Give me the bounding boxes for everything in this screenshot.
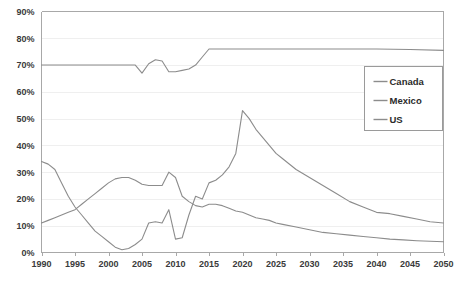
x-axis-tick-labels: 1990199520002005201020152020202520302035… [31, 259, 453, 269]
x-tick-label: 1990 [31, 259, 51, 269]
x-tick-label: 2030 [299, 259, 319, 269]
y-tick-label: 80% [16, 34, 34, 44]
x-tick-label: 2010 [165, 259, 185, 269]
x-tick-label: 2045 [400, 259, 420, 269]
chart-legend: CanadaMexicoUS [365, 67, 443, 131]
y-tick-label: 0% [21, 248, 34, 258]
x-tick-label: 2005 [132, 259, 152, 269]
series-line-mexico [42, 172, 444, 242]
y-tick-label: 70% [16, 60, 34, 70]
x-tick-label: 2015 [199, 259, 219, 269]
x-tick-label: 2025 [266, 259, 286, 269]
legend-label-us[interactable]: US [390, 114, 403, 125]
series-line-canada [42, 111, 444, 250]
y-tick-label: 10% [16, 221, 34, 231]
x-tick-label: 1995 [65, 259, 85, 269]
y-tick-label: 20% [16, 194, 34, 204]
x-tick-label: 2040 [366, 259, 386, 269]
y-axis-tick-labels: 0%10%20%30%40%50%60%70%80%90% [16, 7, 34, 258]
y-tick-label: 50% [16, 114, 34, 124]
x-tick-label: 2000 [98, 259, 118, 269]
legend-label-mexico[interactable]: Mexico [390, 95, 422, 106]
y-tick-label: 30% [16, 168, 34, 178]
x-tick-label: 2020 [232, 259, 252, 269]
chart-canvas: 0%10%20%30%40%50%60%70%80%90% 1990199520… [0, 0, 460, 281]
x-tick-label: 2050 [433, 259, 453, 269]
x-tick-label: 2035 [333, 259, 353, 269]
y-tick-label: 60% [16, 87, 34, 97]
y-tick-label: 40% [16, 141, 34, 151]
legend-label-canada[interactable]: Canada [390, 76, 425, 87]
chart-axes [42, 12, 445, 256]
y-tick-label: 90% [16, 7, 34, 17]
line-chart: 0%10%20%30%40%50%60%70%80%90% 1990199520… [0, 0, 460, 281]
